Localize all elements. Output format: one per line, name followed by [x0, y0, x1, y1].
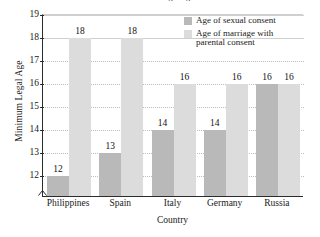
y-tick-label: 14 [21, 125, 39, 134]
legend-swatch-icon [184, 17, 192, 25]
y-tick-mark [40, 61, 44, 62]
y-tick-mark [40, 153, 44, 154]
x-axis-label: Country [42, 215, 303, 225]
y-tick-label: 15 [21, 102, 39, 111]
bar-value-label: 18 [117, 26, 147, 36]
y-tick-label: 19 [21, 10, 39, 19]
chart-title: Minimum Legal Ages [0, 0, 320, 1]
x-axis-line [42, 196, 303, 197]
bar [278, 84, 300, 196]
y-tick-mark [40, 38, 44, 39]
bar-chart: Minimum Legal Ages Minimum Legal Age 121… [0, 0, 320, 237]
legend-swatch-icon [184, 30, 192, 38]
x-tick-label: Russia [237, 198, 317, 209]
bar-value-label: 16 [170, 72, 200, 82]
bar-value-label: 18 [65, 26, 95, 36]
legend-item-sexual-consent: Age of sexual consent [184, 16, 306, 26]
bar-value-label: 16 [274, 72, 304, 82]
bar [174, 84, 196, 196]
legend-label-line-2: parental consent [196, 37, 255, 47]
y-tick-mark [40, 107, 44, 108]
legend: Age of sexual consent Age of marriage wi… [184, 16, 306, 51]
bar [256, 84, 278, 196]
y-tick-label: 13 [21, 148, 39, 157]
y-tick-label: 12 [21, 171, 39, 180]
legend-item-marriage-consent: Age of marriage withparental consent [184, 29, 306, 48]
bar [69, 38, 91, 196]
axis-break-icon [38, 183, 47, 190]
y-tick-mark [40, 130, 44, 131]
legend-item-label: Age of marriage withparental consent [196, 29, 273, 48]
bar [99, 153, 121, 196]
bar [47, 176, 69, 196]
legend-item-label: Age of sexual consent [196, 16, 276, 26]
legend-label-line-1: Age of marriage with [196, 28, 273, 38]
y-tick-label: 18 [21, 33, 39, 42]
bar [152, 130, 174, 196]
y-tick-label: 16 [21, 79, 39, 88]
y-tick-mark [40, 84, 44, 85]
bar [121, 38, 143, 196]
y-tick-mark [40, 15, 44, 16]
bar [226, 84, 248, 196]
bar-value-label: 16 [222, 72, 252, 82]
y-tick-label: 17 [21, 56, 39, 65]
bar [204, 130, 226, 196]
